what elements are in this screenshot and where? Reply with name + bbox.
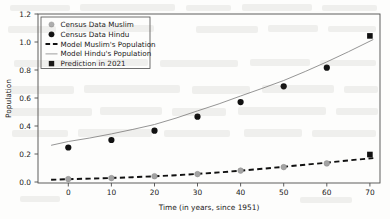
legend-label: Model Muslim's Population: [61, 40, 156, 49]
x-tick-label: 10: [107, 188, 117, 197]
chart-legend: Census Data Muslim Census Data Hindu Mod…: [41, 17, 156, 69]
legend-marker-circle-gray-icon: [49, 22, 54, 27]
y-tick-label: 0.8: [19, 66, 31, 75]
x-tick-label: 0: [66, 188, 71, 197]
x-tick-label: 50: [279, 188, 289, 197]
y-tick-label: 0.6: [19, 94, 31, 103]
y-tick-label: 0.2: [19, 150, 31, 159]
legend-marker-circle-black-icon: [49, 31, 55, 37]
legend-item-model-muslim-population[interactable]: Model Muslim's Population: [46, 40, 156, 49]
x-tick-label: 40: [236, 188, 246, 197]
y-tick-label: 0.0: [19, 178, 31, 187]
population-growth-chart: 0.0 0.2 0.4 0.6 0.8 1.0 1.2 Population 0…: [0, 0, 390, 219]
legend-label: Model Hindu's Population: [61, 49, 152, 58]
legend-label: Census Data Hindu: [61, 30, 130, 39]
x-axis-title: Time (in years, since 1951): [158, 203, 260, 212]
y-tick-label: 1.2: [19, 10, 31, 19]
y-tick-label: 1.0: [19, 38, 31, 47]
chart-figure: 0.0 0.2 0.4 0.6 0.8 1.0 1.2 Population 0…: [0, 0, 390, 219]
legend-item-prediction-2021[interactable]: Prediction in 2021: [49, 59, 126, 68]
legend-label: Prediction in 2021: [61, 59, 126, 68]
legend-item-model-hindu-population[interactable]: Model Hindu's Population: [46, 49, 152, 58]
legend-item-census-data-muslim[interactable]: Census Data Muslim: [49, 20, 134, 29]
x-tick-label: 60: [322, 188, 332, 197]
y-tick-label: 0.4: [19, 122, 31, 131]
legend-label: Census Data Muslim: [61, 20, 134, 29]
legend-item-census-data-hindu[interactable]: Census Data Hindu: [49, 30, 130, 39]
y-axis-title: Population: [4, 79, 13, 118]
x-tick-label: 30: [193, 188, 203, 197]
x-tick-label: 70: [365, 188, 375, 197]
x-tick-label: 20: [150, 188, 160, 197]
legend-marker-square-icon: [49, 61, 54, 66]
